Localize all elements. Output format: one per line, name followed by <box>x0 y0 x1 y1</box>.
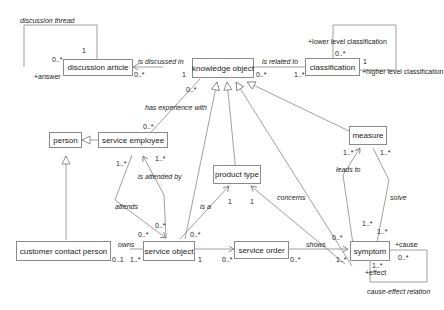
class-symptom: symptom <box>350 241 390 261</box>
mult-attends-se: 1..* <box>116 160 127 167</box>
class-customer-contact-person: customer contact person <box>16 241 111 261</box>
mult-shows-order: 0..* <box>290 256 301 263</box>
role-answer: +answer <box>34 73 61 80</box>
mult-effect: 1..* <box>372 262 383 269</box>
assoc-cause-effect-relation: cause-effect relation <box>367 288 430 295</box>
role-lower-level-classification: +lower level classification <box>308 38 387 45</box>
assoc-attends: attends <box>115 203 138 210</box>
assoc-is-a: is a <box>200 203 211 210</box>
assoc-leads-to: leads to <box>336 166 361 173</box>
class-measure: measure <box>349 126 387 145</box>
assoc-solve: solve <box>390 194 406 201</box>
class-service-employee: service employee <box>98 132 168 148</box>
mult-discussed-ko: 1 <box>182 71 186 78</box>
mult-attended-so: 0..* <box>155 222 166 229</box>
class-classification: classification <box>305 58 360 76</box>
class-person: person <box>49 132 82 148</box>
mult-thread-one: 1 <box>82 47 86 54</box>
assoc-owns: owns <box>118 241 134 248</box>
class-service-order: service order <box>234 241 289 259</box>
mult-shows-symptom: 1..* <box>336 256 347 263</box>
role-effect: +effect <box>365 269 386 276</box>
mult-order-so: 1 <box>198 256 202 263</box>
mult-isa-pt: 1 <box>228 198 232 205</box>
mult-owns-ccp: 0..1 <box>112 256 124 263</box>
mult-isa-so: 0..* <box>190 231 201 238</box>
class-knowledge-object: knowledge object <box>192 58 254 78</box>
assoc-is-discussed-in: is discussed in <box>138 58 184 65</box>
role-higher-level-classification: +higher level classification <box>362 68 444 75</box>
mult-attends-so: 0..* <box>138 231 149 238</box>
mult-solve-measure: 1..* <box>380 149 391 156</box>
role-cause: +cause <box>395 241 418 248</box>
mult-solve-symptom: 1..* <box>377 228 388 235</box>
mult-leads-measure: 1..* <box>343 149 354 156</box>
assoc-is-related-to: is related to <box>262 58 298 65</box>
mult-concerns-symptom: 0..* <box>332 234 343 241</box>
uml-class-diagram: discussion article knowledge object clas… <box>0 0 444 310</box>
assoc-discussion-thread: discussion thread <box>20 17 74 24</box>
mult-exp-se: 0..* <box>143 123 154 130</box>
mult-discussed-article: 0..* <box>134 71 145 78</box>
assoc-shows: shows <box>306 241 326 248</box>
mult-class-self-lower: 0..* <box>335 50 346 57</box>
class-discussion-article: discussion article <box>63 59 133 76</box>
assoc-has-experience-with: has experience with <box>145 104 207 111</box>
mult-owns-so: 1..* <box>130 256 141 263</box>
mult-cause: 0..* <box>398 254 409 261</box>
class-service-object: service object <box>143 241 195 261</box>
mult-order-order: 0..* <box>222 256 233 263</box>
mult-class-self-higher: 1 <box>363 58 367 65</box>
mult-concerns-pt: 1 <box>250 198 254 205</box>
class-product-type: product type <box>213 165 261 184</box>
assoc-is-attended-by: is attended by <box>138 173 182 180</box>
mult-exp-ko: 0..* <box>186 86 197 93</box>
assoc-concerns: concerns <box>277 194 305 201</box>
mult-attended-se: 1..* <box>155 155 166 162</box>
mult-thread-many: 0..* <box>52 56 63 63</box>
mult-related-class: 1..* <box>294 71 305 78</box>
mult-leads-symptom: 1..* <box>362 220 373 227</box>
mult-related-ko: 0..* <box>256 71 267 78</box>
